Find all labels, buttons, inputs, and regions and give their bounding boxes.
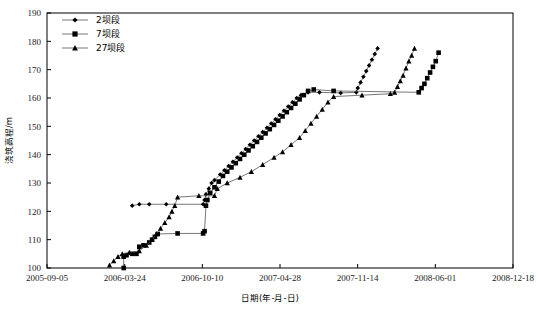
marker-square (331, 89, 336, 94)
x-tick-label-2008-06-01: 2008-06-01 (414, 273, 456, 283)
marker-square (221, 174, 226, 179)
series-line-7坝段 (124, 53, 439, 268)
marker-square (416, 90, 421, 95)
marker-square (259, 135, 264, 140)
series-line-2坝段 (132, 48, 377, 205)
marker-square (419, 86, 424, 91)
marker-triangle (403, 66, 408, 71)
marker-triangle (166, 214, 171, 219)
marker-diamond (164, 202, 169, 207)
marker-square (422, 82, 427, 87)
marker-triangle (412, 46, 417, 51)
marker-square (175, 231, 180, 236)
marker-triangle (237, 175, 242, 180)
marker-diamond (72, 17, 77, 22)
marker-square (202, 229, 207, 234)
marker-diamond (130, 203, 135, 208)
marker-square (267, 127, 272, 132)
x-axis-title: 日期(年-月-日) (241, 293, 299, 303)
y-tick-label-140: 140 (28, 150, 42, 160)
marker-square (72, 31, 77, 36)
marker-triangle (172, 203, 177, 208)
x-tick-label-2006-10-10: 2006-10-10 (181, 273, 223, 283)
marker-diamond (358, 80, 363, 85)
x-tick-label-2005-09-05: 2005-09-05 (26, 273, 68, 283)
marker-square (280, 114, 285, 119)
marker-triangle (271, 155, 276, 160)
marker-diamond (361, 74, 366, 79)
marker-diamond (375, 46, 380, 51)
marker-square (285, 110, 290, 115)
marker-triangle (398, 78, 403, 83)
marker-diamond (317, 90, 322, 95)
marker-square (436, 50, 441, 55)
marker-square (311, 87, 316, 92)
marker-triangle (395, 84, 400, 89)
marker-diamond (367, 63, 372, 68)
marker-square (225, 169, 230, 174)
marker-square (302, 93, 307, 98)
y-tick-label-130: 130 (28, 178, 42, 188)
marker-square (297, 97, 302, 102)
marker-square (431, 65, 436, 70)
marker-diamond (354, 90, 359, 95)
marker-square (121, 266, 126, 271)
marker-square (425, 76, 430, 81)
y-tick-label-190: 190 (28, 8, 42, 18)
marker-triangle (260, 162, 265, 167)
marker-square (276, 118, 281, 123)
marker-diamond (355, 86, 360, 91)
marker-square (255, 140, 260, 145)
marker-square (238, 157, 243, 162)
marker-triangle (406, 58, 411, 63)
y-tick-label-100: 100 (28, 263, 42, 273)
marker-triangle (401, 73, 406, 78)
marker-diamond (370, 57, 375, 62)
x-tick-label-2006-03-24: 2006-03-24 (104, 273, 146, 283)
y-tick-label-180: 180 (28, 37, 42, 47)
marker-square (205, 198, 210, 203)
marker-triangle (169, 209, 174, 214)
marker-triangle (115, 254, 120, 259)
legend-label-27坝段: 27坝段 (96, 42, 125, 53)
marker-diamond (206, 186, 211, 191)
marker-square (272, 123, 277, 128)
marker-square (293, 101, 298, 106)
series-line-27坝段 (109, 48, 414, 265)
marker-triangle (409, 53, 414, 58)
x-tick-label-2007-11-14: 2007-11-14 (337, 273, 379, 283)
marker-square (306, 89, 311, 94)
y-tick-label-120: 120 (28, 207, 42, 217)
marker-square (246, 148, 251, 153)
x-tick-label-2008-12-18: 2008-12-18 (492, 273, 534, 283)
marker-square (250, 144, 255, 149)
marker-square (242, 152, 247, 157)
marker-triangle (249, 169, 254, 174)
elevation-time-chart: 1001101201301401501601701801902005-09-05… (0, 0, 538, 309)
x-tick-label-2007-04-28: 2007-04-28 (259, 273, 301, 283)
chart-root: 1001101201301401501601701801902005-09-05… (0, 0, 538, 309)
legend-label-2坝段: 2坝段 (96, 14, 120, 25)
marker-diamond (147, 202, 152, 207)
y-tick-label-150: 150 (28, 122, 42, 132)
marker-square (263, 131, 268, 136)
y-tick-label-110: 110 (28, 235, 42, 245)
legend-label-7坝段: 7坝段 (96, 28, 120, 39)
marker-square (289, 106, 294, 111)
marker-square (216, 179, 221, 184)
y-axis-title: 浇筑高程/m (4, 117, 14, 164)
marker-square (208, 191, 213, 196)
marker-square (229, 165, 234, 170)
marker-diamond (137, 202, 142, 207)
marker-triangle (225, 180, 230, 185)
marker-square (204, 203, 209, 208)
marker-square (233, 161, 238, 166)
marker-diamond (364, 69, 369, 74)
marker-diamond (372, 52, 377, 57)
y-tick-label-160: 160 (28, 93, 42, 103)
marker-square (433, 59, 438, 64)
y-tick-label-170: 170 (28, 65, 42, 75)
marker-square (428, 70, 433, 75)
